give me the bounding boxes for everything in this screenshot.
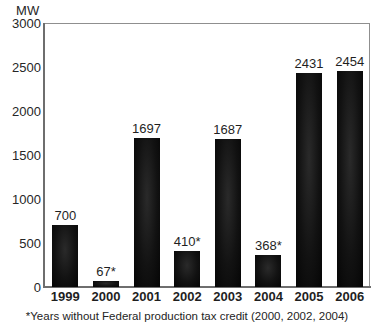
x-tick-label: 2001: [132, 289, 161, 304]
bar-column: 2431: [289, 24, 330, 287]
x-tick-label: 2006: [335, 289, 364, 304]
bar-rect: [134, 138, 160, 287]
bar-column: 1687: [208, 24, 249, 287]
bar-series: 70067*1697410*1687368*24312454: [45, 24, 370, 287]
bar-rect: [296, 73, 322, 287]
x-tick-label: 2005: [295, 289, 324, 304]
bar-value-label: 368*: [255, 239, 282, 252]
bar-column: 700: [45, 24, 86, 287]
y-tick-label: 2500: [3, 61, 41, 74]
bar-column: 1697: [126, 24, 167, 287]
bar-rect: [215, 139, 241, 287]
y-tick-label: 0: [3, 281, 41, 294]
bar-rect: [337, 71, 363, 287]
bar-column: 2454: [329, 24, 370, 287]
bar-value-label: 410*: [174, 235, 201, 248]
bar-column: 368*: [248, 24, 289, 287]
bar-value-label: 1697: [132, 122, 161, 135]
x-tick-label: 2003: [213, 289, 242, 304]
y-tick-label: 2000: [3, 105, 41, 118]
x-tick-label: 1999: [51, 289, 80, 304]
bar-rect: [93, 281, 119, 287]
y-axis-tick-labels: 300025002000150010005000: [0, 0, 41, 328]
x-tick-label: 2000: [91, 289, 120, 304]
bar-value-label: 700: [54, 209, 76, 222]
y-tick-label: 500: [3, 237, 41, 250]
y-tick-label: 1500: [3, 149, 41, 162]
y-tick-label: 3000: [3, 17, 41, 30]
x-tick-label: 2004: [254, 289, 283, 304]
bar-column: 410*: [167, 24, 208, 287]
bar-value-label: 1687: [213, 123, 242, 136]
bar-value-label: 2454: [335, 55, 364, 68]
x-tick-label: 2002: [173, 289, 202, 304]
bar-rect: [255, 255, 281, 287]
bar-rect: [52, 225, 78, 287]
bar-value-label: 67*: [96, 265, 116, 278]
bar-column: 67*: [86, 24, 127, 287]
bar-rect: [174, 251, 200, 287]
chart-footnote: *Years without Federal production tax cr…: [0, 310, 374, 323]
cut-off-title: [0, 0, 374, 4]
bar-value-label: 2431: [295, 57, 324, 70]
y-tick-label: 1000: [3, 193, 41, 206]
x-axis-tick-labels: 19992000200120022003200420052006: [45, 289, 370, 307]
